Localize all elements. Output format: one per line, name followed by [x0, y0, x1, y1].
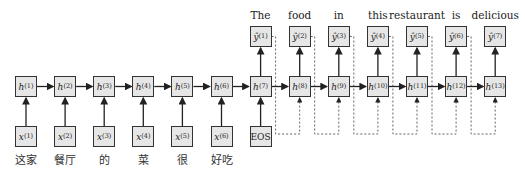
node-index: (4): [376, 32, 385, 40]
decoder-output: ŷ(5): [406, 26, 428, 47]
node-index: (5): [180, 132, 189, 140]
encoder-input: x(4): [132, 126, 154, 147]
encoder-input: x(6): [211, 126, 233, 147]
seq2seq-diagram: h(1)h(2)h(3)h(4)h(5)h(6)x(1)这家x(2)餐厅x(3)…: [0, 0, 525, 178]
source-word: 菜: [123, 151, 163, 167]
node-index: (4): [142, 82, 151, 90]
node-index: (5): [415, 32, 424, 40]
node-index: (1): [24, 82, 33, 90]
node-index: (12): [452, 82, 465, 90]
decoder-output: ŷ(7): [484, 26, 506, 47]
encoder-input: x(5): [171, 126, 193, 147]
encoder-hidden-state: h(2): [54, 76, 76, 97]
node-index: (7): [259, 82, 268, 90]
target-word: delicious: [465, 9, 525, 21]
node-index: (4): [141, 132, 150, 140]
eos-token: EOS: [250, 126, 272, 147]
encoder-input: x(1): [15, 126, 37, 147]
node-index: (6): [219, 132, 228, 140]
node-index: (2): [63, 82, 72, 90]
decoder-output: ŷ(1): [250, 26, 272, 47]
decoder-output: ŷ(3): [328, 26, 350, 47]
source-word: 餐厅: [45, 151, 85, 167]
decoder-output: ŷ(2): [289, 26, 311, 47]
node-index: (2): [298, 32, 307, 40]
node-index: (1): [24, 132, 33, 140]
node-index: (3): [102, 82, 111, 90]
decoder-hidden-state: h(8): [289, 76, 311, 97]
decoder-hidden-state: h(11): [406, 76, 428, 97]
node-index: (7): [493, 32, 502, 40]
encoder-hidden-state: h(1): [15, 76, 37, 97]
decoder-hidden-state: h(9): [328, 76, 350, 97]
encoder-input: x(2): [54, 126, 76, 147]
node-index: (10): [374, 82, 387, 90]
node-index: (8): [298, 82, 307, 90]
decoder-hidden-state: h(10): [367, 76, 389, 97]
node-index: (6): [454, 32, 463, 40]
node-index: (6): [220, 82, 229, 90]
encoder-hidden-state: h(3): [93, 76, 115, 97]
node-index: (2): [63, 132, 72, 140]
node-index: (11): [413, 82, 426, 90]
encoder-hidden-state: h(5): [171, 76, 193, 97]
node-index: (3): [102, 132, 111, 140]
decoder-output: ŷ(4): [367, 26, 389, 47]
decoder-hidden-state: h(12): [445, 76, 467, 97]
encoder-input: x(3): [93, 126, 115, 147]
node-index: (5): [181, 82, 190, 90]
source-word: 好吃: [202, 151, 242, 167]
decoder-hidden-state: h(13): [484, 76, 506, 97]
node-index: (13): [491, 82, 504, 90]
node-index: (1): [259, 32, 268, 40]
decoder-output: ŷ(6): [445, 26, 467, 47]
source-word: 很: [162, 151, 202, 167]
source-word: 的: [84, 151, 124, 167]
encoder-hidden-state: h(4): [132, 76, 154, 97]
node-index: (3): [337, 32, 346, 40]
source-word: 这家: [6, 151, 46, 167]
encoder-hidden-state: h(6): [211, 76, 233, 97]
node-index: (9): [337, 82, 346, 90]
decoder-hidden-state: h(7): [250, 76, 272, 97]
